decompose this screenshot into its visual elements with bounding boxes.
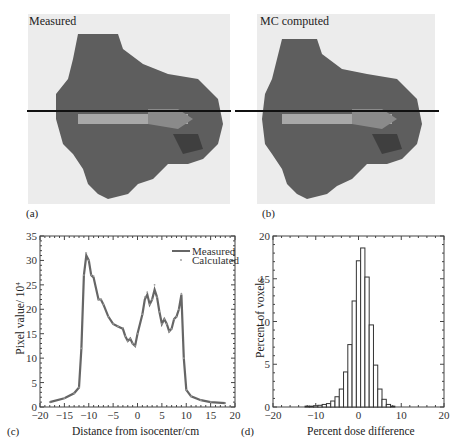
chart-d-ylabel: Percent of voxels <box>254 258 266 378</box>
svg-text:0: 0 <box>265 401 271 413</box>
svg-text:20: 20 <box>259 230 271 242</box>
svg-text:0: 0 <box>356 409 362 421</box>
svg-text:20: 20 <box>439 409 451 421</box>
svg-text:−10: −10 <box>307 409 325 421</box>
dose-difference-histogram: −20−100102005101520 <box>0 0 459 446</box>
svg-text:10: 10 <box>396 409 408 421</box>
panel-d-label: (d) <box>241 425 254 437</box>
chart-d-xlabel: Percent dose difference <box>307 425 415 437</box>
